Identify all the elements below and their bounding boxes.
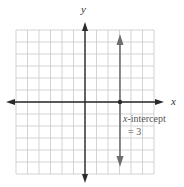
- x-intercept-annotation-line1: x-intercept: [122, 113, 166, 124]
- x-axis-left-arrow-icon: [6, 99, 15, 105]
- y-axis-down-arrow-icon: [82, 174, 88, 183]
- y-axis-label: y: [80, 3, 86, 15]
- y-axis-up-arrow-icon: [82, 22, 88, 31]
- line-down-arrow-icon: [117, 156, 124, 167]
- coordinate-graph: x y x-intercept = 3: [0, 0, 184, 187]
- line-up-arrow-icon: [117, 34, 124, 45]
- x-intercept-annotation-line2: = 3: [128, 126, 141, 137]
- annotation-intercept-text: -intercept: [127, 113, 166, 124]
- x-axis-label: x: [170, 95, 176, 107]
- x-intercept-point: [118, 100, 122, 104]
- x-axis-right-arrow-icon: [155, 99, 164, 105]
